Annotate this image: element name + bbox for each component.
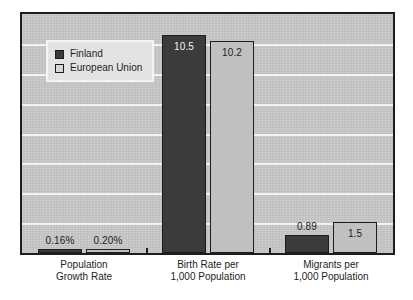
legend: Finland European Union: [46, 40, 154, 82]
legend-label-european-union: European Union: [70, 62, 142, 74]
plot-area: 0.16%0.20%10.510.20.891.5 Finland Europe…: [20, 12, 395, 255]
gridline: [22, 193, 393, 195]
bar: [38, 249, 82, 253]
bar-value-label: 10.2: [211, 47, 253, 58]
axis-tick: [146, 248, 148, 255]
gridline: [22, 163, 393, 165]
bar: 10.2: [210, 41, 254, 253]
gridline: [22, 134, 393, 136]
bar: [86, 249, 130, 253]
bar-value-label: 1.5: [334, 228, 376, 239]
category-label: Birth Rate per1,000 Population: [146, 259, 270, 283]
legend-item-finland: Finland: [55, 47, 142, 61]
bar: [285, 235, 329, 253]
bar: 10.5: [162, 35, 206, 253]
legend-swatch-icon-european-union: [55, 64, 64, 73]
bar-value-label: 0.20%: [86, 235, 130, 246]
category-label-line: Migrants per: [269, 259, 393, 271]
gridline: [22, 104, 393, 106]
bar-value-label: 0.89: [285, 221, 329, 232]
category-label-line: 1,000 Population: [146, 271, 270, 283]
axis-tick: [269, 248, 271, 255]
category-label: Migrants per1,000 Population: [269, 259, 393, 283]
category-label-line: Growth Rate: [22, 271, 146, 283]
legend-swatch-icon-finland: [55, 50, 64, 59]
category-label-line: Population: [22, 259, 146, 271]
legend-label-finland: Finland: [70, 48, 103, 60]
bar-value-label: 10.5: [163, 41, 205, 52]
category-label: PopulationGrowth Rate: [22, 259, 146, 283]
legend-item-european-union: European Union: [55, 61, 142, 75]
bar-value-label: 0.16%: [38, 235, 82, 246]
bar-chart: 0.16%0.20%10.510.20.891.5 Finland Europe…: [0, 0, 413, 300]
category-label-line: 1,000 Population: [269, 271, 393, 283]
bar: 1.5: [333, 222, 377, 253]
category-label-line: Birth Rate per: [146, 259, 270, 271]
